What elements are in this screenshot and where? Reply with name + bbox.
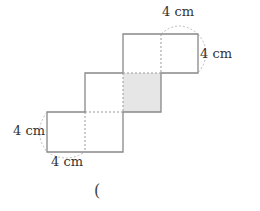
label-bottom-width: 4 cm — [51, 155, 83, 168]
label-top-height: 4 cm — [200, 47, 232, 60]
cube-net-diagram — [0, 0, 260, 211]
answer-parenthesis: ( — [94, 181, 100, 200]
label-top-width: 4 cm — [162, 5, 194, 18]
label-bottom-height: 4 cm — [13, 124, 45, 137]
shaded-face — [123, 73, 161, 112]
